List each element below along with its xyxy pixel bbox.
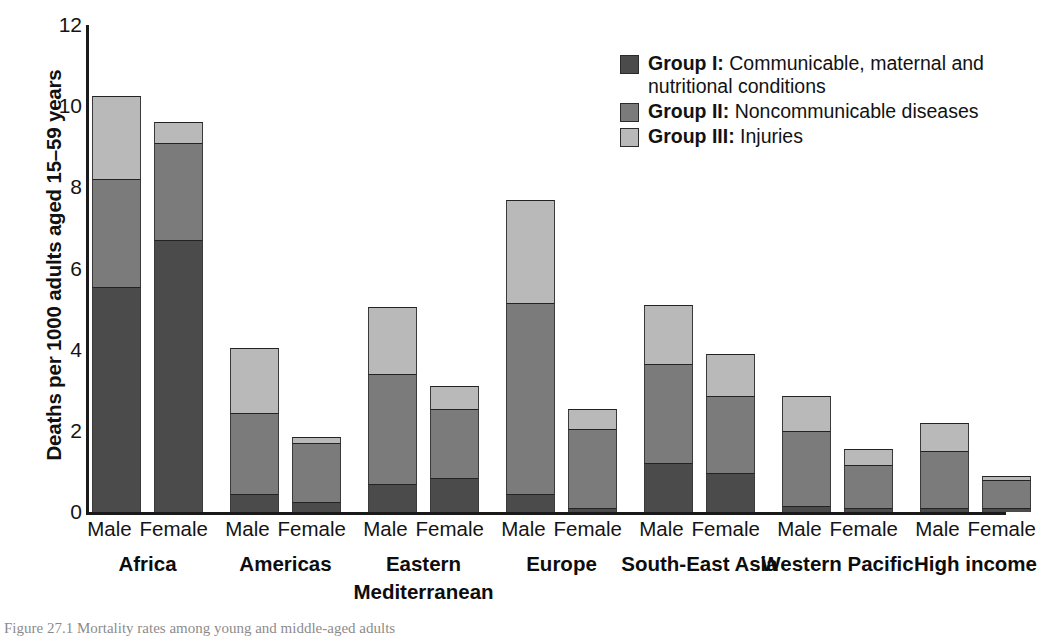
y-tick-8: 8 (46, 176, 82, 197)
legend-label-group-2: Group II: Noncommunicable diseases (648, 100, 979, 123)
legend-label-group-3: Group III: Injuries (648, 125, 803, 148)
x-label-female: Female (692, 518, 756, 540)
bar-segment-group-1 (644, 463, 693, 512)
y-tick-4: 4 (46, 339, 82, 360)
chart-legend: Group I: Communicable, maternal and nutr… (620, 52, 1008, 150)
bar-segment-group-3 (506, 200, 555, 303)
bar-segment-group-1 (292, 502, 341, 512)
bar-segment-group-2 (92, 179, 141, 287)
x-label-female: Female (968, 518, 1032, 540)
bar-segment-group-1 (92, 287, 141, 512)
x-label-male: Male (906, 518, 970, 540)
x-label-male: Male (630, 518, 694, 540)
y-tick-2: 2 (46, 420, 82, 441)
x-label-female: Female (830, 518, 894, 540)
bar-segment-group-1 (368, 484, 417, 512)
x-label-male: Male (492, 518, 556, 540)
legend-label-group-1: Group I: Communicable, maternal and nutr… (648, 52, 1008, 98)
bar-segment-group-1 (782, 506, 831, 512)
x-label-male: Male (354, 518, 418, 540)
bar-western-pacific-male (782, 396, 831, 512)
region-label-high-income: High income (881, 550, 1041, 578)
bar-south-east-asia-female (706, 354, 755, 512)
legend-item-group-1: Group I: Communicable, maternal and nutr… (620, 52, 1008, 98)
bar-segment-group-1 (844, 508, 893, 512)
x-axis-region-labels: AfricaAmericasEastern MediterraneanEurop… (89, 550, 1006, 630)
x-axis-line (86, 512, 1006, 515)
bar-segment-group-2 (430, 409, 479, 478)
bar-segment-group-3 (430, 386, 479, 408)
bar-segment-group-3 (844, 449, 893, 465)
bar-segment-group-2 (844, 465, 893, 508)
bar-eastern-mediterranean-male (368, 307, 417, 512)
bar-americas-female (292, 437, 341, 512)
bar-segment-group-1 (154, 240, 203, 512)
bar-eastern-mediterranean-female (430, 386, 479, 512)
bar-segment-group-3 (368, 307, 417, 374)
bar-segment-group-1 (982, 508, 1031, 512)
bar-segment-group-1 (568, 508, 617, 512)
legend-key-group-3: Group III: (648, 125, 735, 147)
bar-africa-male (92, 96, 141, 512)
bar-segment-group-2 (230, 413, 279, 494)
legend-swatch-icon-group-1 (620, 55, 639, 74)
bar-segment-group-1 (230, 494, 279, 512)
x-label-female: Female (416, 518, 480, 540)
bar-segment-group-2 (706, 396, 755, 473)
bar-europe-male (506, 200, 555, 512)
bar-segment-group-3 (782, 396, 831, 430)
bar-segment-group-1 (430, 478, 479, 512)
x-label-female: Female (278, 518, 342, 540)
legend-key-group-1: Group I: (648, 52, 724, 74)
legend-swatch-icon-group-2 (620, 103, 639, 122)
y-tick-12: 12 (46, 14, 82, 35)
figure-caption: Figure 27.1 Mortality rates among young … (4, 620, 1004, 636)
bar-segment-group-2 (368, 374, 417, 484)
bar-segment-group-2 (568, 429, 617, 508)
bar-segment-group-3 (568, 409, 617, 429)
y-tick-10: 10 (46, 95, 82, 116)
bar-segment-group-2 (292, 443, 341, 502)
bar-segment-group-3 (92, 96, 141, 179)
x-label-male: Male (78, 518, 142, 540)
bar-segment-group-1 (506, 494, 555, 512)
x-label-male: Male (768, 518, 832, 540)
legend-swatch-icon-group-3 (620, 128, 639, 147)
x-label-male: Male (216, 518, 280, 540)
bar-segment-group-3 (706, 354, 755, 397)
legend-item-group-2: Group II: Noncommunicable diseases (620, 100, 1008, 123)
bar-segment-group-2 (644, 364, 693, 463)
bar-high-income-female (982, 476, 1031, 513)
bar-africa-female (154, 122, 203, 512)
bar-high-income-male (920, 423, 969, 512)
bar-americas-male (230, 348, 279, 512)
x-axis-sex-labels: MaleFemaleMaleFemaleMaleFemaleMaleFemale… (89, 518, 1006, 548)
bar-western-pacific-female (844, 449, 893, 512)
bar-segment-group-3 (230, 348, 279, 413)
bar-europe-female (568, 409, 617, 512)
bar-segment-group-2 (154, 143, 203, 240)
bar-segment-group-3 (920, 423, 969, 451)
legend-key-group-2: Group II: (648, 100, 729, 122)
y-axis-tick-labels: 024681012 (38, 0, 82, 636)
bar-segment-group-1 (920, 508, 969, 512)
x-label-female: Female (140, 518, 204, 540)
bar-segment-group-1 (706, 473, 755, 512)
bar-segment-group-3 (644, 305, 693, 364)
bar-segment-group-2 (920, 451, 969, 508)
legend-item-group-3: Group III: Injuries (620, 125, 1008, 148)
bar-segment-group-2 (506, 303, 555, 494)
x-label-female: Female (554, 518, 618, 540)
bar-south-east-asia-male (644, 305, 693, 512)
bar-segment-group-2 (782, 431, 831, 506)
bar-segment-group-2 (982, 480, 1031, 508)
bar-segment-group-3 (154, 122, 203, 142)
y-tick-6: 6 (46, 258, 82, 279)
